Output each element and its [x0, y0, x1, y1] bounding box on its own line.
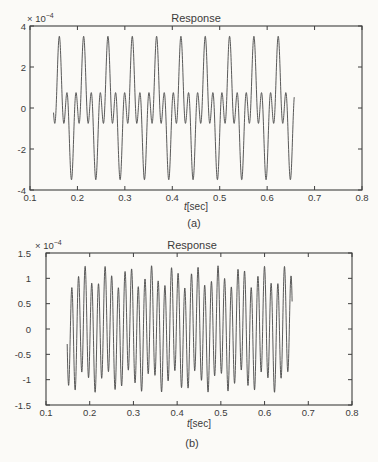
y-tick-label: 1 [26, 273, 31, 284]
x-tick-label: 0.8 [345, 407, 358, 418]
y-tick-label: 2 [21, 62, 26, 73]
y-tick-label: 1.5 [18, 248, 31, 259]
x-tick-label: 0.6 [261, 192, 274, 203]
y-tick-label: -1 [23, 374, 31, 385]
plot-panel-b: 0.10.20.30.40.50.60.70.81.510.50-0.5-1-1… [0, 231, 378, 462]
panel-caption: (b) [185, 437, 198, 449]
x-axis-label: t[sec] [187, 418, 211, 429]
y-scale-label: × 10−4 [27, 12, 54, 24]
x-tick-label: 0.8 [355, 192, 368, 203]
x-tick-label: 0.5 [213, 192, 226, 203]
x-tick-label: 0.1 [39, 407, 52, 418]
x-tick-label: 0.4 [166, 192, 179, 203]
y-tick-label: -2 [18, 144, 26, 155]
x-tick-label: 0.4 [171, 407, 184, 418]
x-tick-label: 0.2 [83, 407, 96, 418]
x-tick-label: 0.2 [71, 192, 84, 203]
panel-caption: (a) [187, 217, 200, 229]
y-tick-label: 0 [26, 324, 31, 335]
response-waveform [67, 266, 292, 393]
response-waveform [54, 36, 295, 180]
y-tick-label: 0 [21, 103, 26, 114]
y-tick-label: 4 [21, 21, 26, 32]
x-axis-label: t[sec] [184, 201, 208, 212]
x-tick-label: 0.3 [118, 192, 131, 203]
y-tick-label: -4 [18, 185, 26, 196]
plot-title: Response [171, 12, 221, 24]
response-figure: 0.10.20.30.40.50.60.70.8420-2-4Response×… [0, 0, 378, 462]
y-scale-label: × 10−4 [35, 239, 62, 251]
y-tick-label: -0.5 [15, 349, 31, 360]
x-tick-label: 0.3 [127, 407, 140, 418]
x-tick-label: 0.7 [302, 407, 315, 418]
plot-panel-a: 0.10.20.30.40.50.60.70.8420-2-4Response×… [0, 0, 378, 231]
y-tick-label: 0.5 [18, 298, 31, 309]
x-tick-label: 0.7 [308, 192, 321, 203]
x-tick-label: 0.5 [214, 407, 227, 418]
y-tick-label: -1.5 [15, 400, 31, 411]
x-tick-label: 0.6 [258, 407, 271, 418]
plot-title: Response [167, 239, 217, 251]
